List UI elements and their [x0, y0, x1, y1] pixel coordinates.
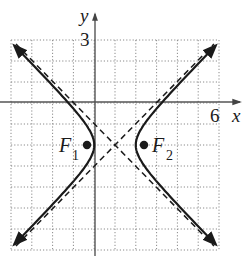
x-axis-label: x: [231, 105, 241, 126]
focus-f1-point: [83, 141, 91, 149]
focus-f1-label: F: [58, 134, 72, 156]
y-axis-label: y: [78, 5, 89, 26]
focus-f2-point: [140, 141, 148, 149]
x-tick-label: 6: [210, 105, 220, 126]
hyperbola-chart: y 3 6 x F 1 F 2: [0, 0, 251, 261]
focus-f2-subscript: 2: [166, 148, 173, 163]
focus-f2-label: F: [151, 134, 165, 156]
y-tick-label: 3: [80, 29, 90, 50]
focus-f1-subscript: 1: [72, 148, 79, 163]
